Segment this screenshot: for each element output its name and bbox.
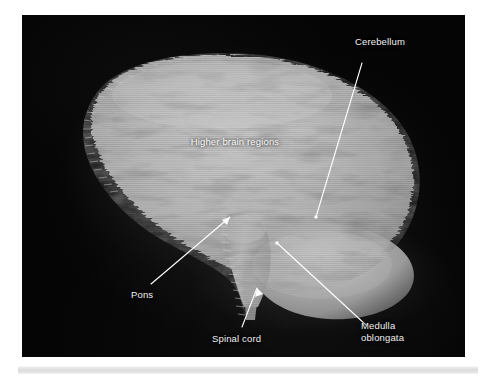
bottom-divider-rule xyxy=(18,366,478,374)
leader-line-cerebellum xyxy=(316,63,362,217)
leader-line-medulla-oblongata xyxy=(277,243,366,325)
mri-image-panel: Cerebellum Higher brain regions Pons Spi… xyxy=(22,15,465,357)
leader-terminus-medulla xyxy=(275,241,278,244)
leader-terminus-cerebellum xyxy=(314,215,317,218)
arrowhead-pons xyxy=(222,217,230,225)
brain-anatomy-figure: Cerebellum Higher brain regions Pons Spi… xyxy=(0,0,492,380)
annotation-arrowheads xyxy=(222,215,318,297)
annotation-leader-lines xyxy=(22,15,465,357)
leader-line-pons xyxy=(151,217,230,284)
leader-line-spinal-cord xyxy=(242,288,257,327)
